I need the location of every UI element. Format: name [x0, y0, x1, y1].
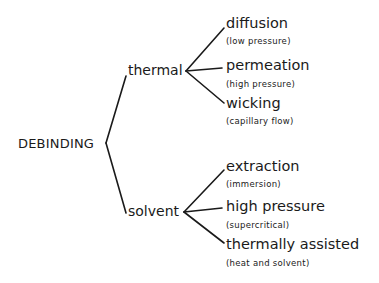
leaf-label-extraction: extraction [226, 159, 300, 174]
connector-root-thermal [106, 76, 126, 143]
root-label-debinding: DEBINDING [18, 137, 94, 150]
connector-root-solvent [106, 143, 126, 213]
connector-thermal-diffusion [186, 28, 224, 71]
leaf-note-high-pressure: (supercritical) [226, 221, 289, 230]
leaf-label-permeation: permeation [226, 58, 310, 73]
leaf-label-wicking: wicking [226, 96, 281, 111]
connector-solvent-extraction [184, 170, 224, 212]
connector-thermal-permeation [186, 68, 222, 71]
leaf-label-high-pressure: high pressure [226, 199, 325, 214]
connector-solvent-high-pressure [184, 208, 222, 212]
leaf-label-thermally-assisted: thermally assisted [226, 237, 359, 252]
leaf-note-permeation: (high pressure) [226, 80, 295, 89]
connector-thermal-wicking [186, 71, 224, 103]
leaf-note-diffusion: (low pressure) [226, 37, 291, 46]
leaf-note-thermally-assisted: (heat and solvent) [226, 259, 310, 268]
branch-label-solvent: solvent [128, 204, 179, 218]
leaf-note-extraction: (immersion) [226, 180, 281, 189]
connector-solvent-thermally-assisted [184, 212, 224, 243]
leaf-label-diffusion: diffusion [226, 16, 288, 31]
branch-label-thermal: thermal [128, 63, 183, 77]
leaf-note-wicking: (capillary flow) [226, 117, 294, 126]
